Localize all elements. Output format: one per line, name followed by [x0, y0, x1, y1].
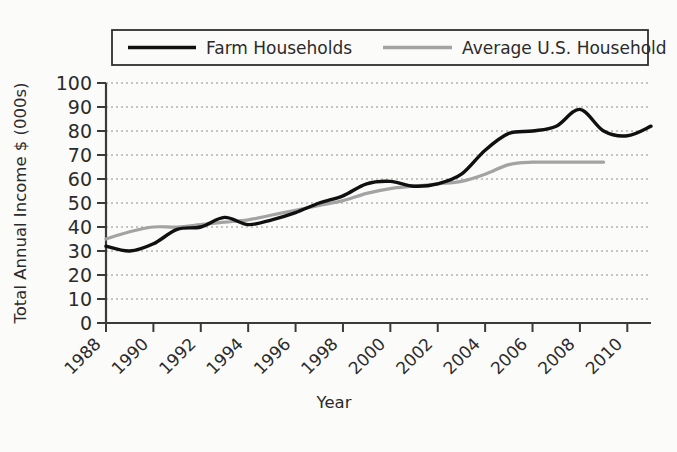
x-tick-label-1994: 1994 — [202, 334, 247, 379]
x-tick-label-2008: 2008 — [534, 334, 579, 379]
y-tick-label-30: 30 — [68, 240, 92, 262]
x-tick-label-1990: 1990 — [107, 334, 152, 379]
y-tick-label-20: 20 — [68, 264, 92, 286]
y-tick-label-40: 40 — [68, 216, 92, 238]
y-tick-label-0: 0 — [80, 312, 92, 334]
x-tick-label-2000: 2000 — [344, 334, 389, 379]
legend-label-farm-households: Farm Households — [206, 38, 352, 58]
y-axis-title: Total Annual Income $ (000s) — [11, 82, 30, 324]
y-tick-label-90: 90 — [68, 96, 92, 118]
x-tick-label-2004: 2004 — [439, 334, 484, 379]
y-tick-label-50: 50 — [68, 192, 92, 214]
legend: Farm Households Average U.S. Household — [112, 30, 667, 65]
y-tick-label-70: 70 — [68, 144, 92, 166]
x-tick-label-1992: 1992 — [155, 334, 200, 379]
x-tick-label-2006: 2006 — [487, 334, 532, 379]
x-tick-label-1998: 1998 — [297, 334, 342, 379]
y-tick-label-60: 60 — [68, 168, 92, 190]
chart-container: 0102030405060708090100 19881990199219941… — [0, 0, 677, 452]
y-tick-label-10: 10 — [68, 288, 92, 310]
y-axis-ticks: 0102030405060708090100 — [56, 72, 106, 334]
x-tick-label-1996: 1996 — [250, 334, 295, 379]
y-tick-label-80: 80 — [68, 120, 92, 142]
x-axis-title: Year — [316, 393, 352, 412]
legend-label-average-us-household: Average U.S. Household — [462, 38, 667, 58]
x-axis-ticks: 1988199019921994199619982000200220042006… — [60, 323, 627, 378]
line-chart: 0102030405060708090100 19881990199219941… — [0, 0, 677, 452]
x-tick-label-2002: 2002 — [392, 334, 437, 379]
x-tick-label-1988: 1988 — [60, 334, 105, 379]
y-tick-label-100: 100 — [56, 72, 92, 94]
x-tick-label-2010: 2010 — [581, 334, 626, 379]
